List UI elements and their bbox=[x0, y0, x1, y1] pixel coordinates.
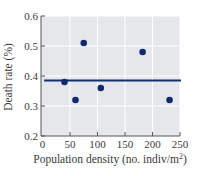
data-point bbox=[98, 85, 105, 92]
scatter-chart: 050100150200250 0.20.30.40.50.6 Populati… bbox=[0, 0, 203, 176]
y-tick-label: 0.2 bbox=[24, 130, 38, 142]
y-tick-label: 0.3 bbox=[24, 100, 38, 112]
data-point bbox=[72, 97, 79, 104]
data-point bbox=[139, 49, 146, 56]
x-axis-title: Population density (no. indiv/m2) bbox=[33, 152, 187, 166]
x-tick-label: 100 bbox=[89, 138, 106, 150]
y-tick-label: 0.5 bbox=[24, 40, 38, 52]
x-tick-label: 250 bbox=[172, 138, 189, 150]
y-axis-title: Death rate (%) bbox=[2, 43, 15, 111]
data-point bbox=[61, 79, 68, 86]
y-tick-label: 0.6 bbox=[24, 10, 38, 22]
x-tick-label: 50 bbox=[65, 138, 77, 150]
x-tick-label: 0 bbox=[40, 138, 46, 150]
data-point bbox=[166, 97, 173, 104]
x-tick-label: 200 bbox=[144, 138, 161, 150]
data-point bbox=[80, 40, 87, 47]
y-tick-label: 0.4 bbox=[24, 70, 38, 82]
x-tick-label: 150 bbox=[117, 138, 134, 150]
